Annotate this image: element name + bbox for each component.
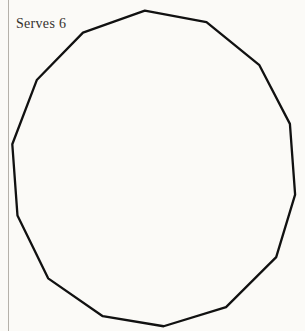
recipe-illustration	[0, 0, 305, 331]
serves-caption: Serves 6	[16, 16, 66, 32]
plate-outline	[12, 11, 295, 327]
clipped-header-text: ...	[22, 0, 30, 1]
plate-rim-polygon	[12, 11, 295, 327]
illustration-page: ... Serves 6	[0, 0, 305, 331]
